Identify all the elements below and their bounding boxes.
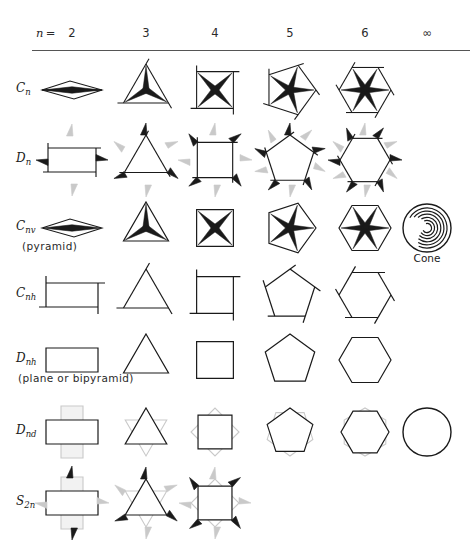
- figure-Cnv-n6: [328, 198, 402, 258]
- figure-Cnh-n6: [328, 265, 402, 325]
- row-label-subscript: n: [25, 87, 30, 97]
- figure-Dnh-n2: [35, 330, 109, 390]
- header-divider: [32, 50, 470, 51]
- figure-Cnv-n2: [35, 198, 109, 258]
- figure-Dnh-n5: [253, 330, 327, 390]
- figure-Dn-n5: [250, 127, 330, 193]
- row-label-main: D: [16, 151, 26, 165]
- row-label-subscript: n: [26, 157, 31, 167]
- cone-caption: Cone: [403, 252, 451, 264]
- figure-Dn-n2: [32, 127, 112, 193]
- row-label-main: D: [16, 351, 26, 365]
- figure-Cnh-n5: [253, 265, 327, 325]
- figure-Cn-n6: [328, 60, 402, 120]
- header-column-3: 3: [126, 26, 166, 40]
- figure-Cnh-n3: [109, 265, 183, 325]
- figure-Dnd-n2: [31, 398, 113, 466]
- figure-Cnh-n2: [35, 265, 109, 325]
- figure-Cnv-ninf: [399, 200, 455, 256]
- row-label-main: S: [16, 494, 24, 508]
- figure-Dnd-n6: [324, 398, 406, 466]
- figure-Cn-n5: [253, 60, 327, 120]
- figure-Dnd-ninf: [399, 404, 455, 460]
- header-column-6: 6: [345, 26, 385, 40]
- row-label-main: C: [16, 286, 25, 300]
- row-label-Dnh: Dnh: [16, 351, 37, 365]
- row-label-main: C: [16, 81, 25, 95]
- figure-S2n-n4: [174, 469, 256, 537]
- figure-S2n-n2: [31, 469, 113, 537]
- row-label-Cnh: Cnh: [16, 286, 36, 300]
- figure-Cnv-n5: [253, 198, 327, 258]
- figure-Cn-n4: [178, 60, 252, 120]
- figure-Dnh-n4: [178, 330, 252, 390]
- figure-Cn-n2: [35, 60, 109, 120]
- figure-Cnv-n3: [109, 198, 183, 258]
- figure-Dn-n6: [325, 127, 405, 193]
- figure-Dnh-n3: [109, 330, 183, 390]
- figure-Dnd-n5: [249, 398, 331, 466]
- row-label-Cn: Cn: [16, 81, 31, 95]
- header-column-4: 4: [195, 26, 235, 40]
- row-label-Cnv: Cnv: [16, 219, 35, 233]
- header-column-2: 2: [52, 26, 92, 40]
- figure-Dnd-n4: [174, 398, 256, 466]
- header-column-5: 5: [270, 26, 310, 40]
- figure-Dn-n3: [106, 127, 186, 193]
- figure-Cnv-n4: [178, 198, 252, 258]
- figure-Cnh-n4: [178, 265, 252, 325]
- figure-Cn-n3: [109, 60, 183, 120]
- figure-Dnh-n6: [328, 330, 402, 390]
- header-column-infinity: ∞: [407, 26, 447, 40]
- row-label-Dn: Dn: [16, 151, 31, 165]
- row-label-subscript: nv: [25, 225, 35, 235]
- symmetry-chart: n =23456∞CnDnCnv(pyramid)ConeCnhDnh(plan…: [0, 0, 474, 555]
- row-label-main: C: [16, 219, 25, 233]
- figure-Dn-n4: [175, 127, 255, 193]
- row-label-main: D: [16, 423, 26, 437]
